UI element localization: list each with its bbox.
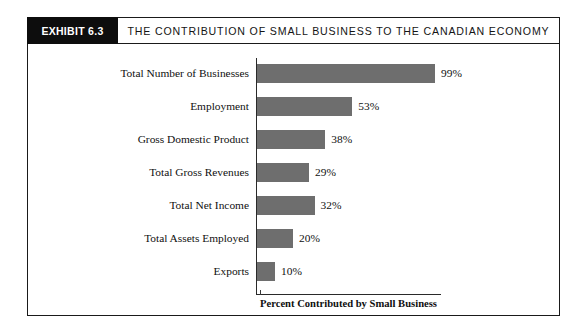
bar-value-label: 38% <box>331 130 352 149</box>
bar-container: 53% <box>257 97 379 116</box>
bar <box>257 64 435 83</box>
bar-container: 99% <box>257 64 462 83</box>
chart-bar-row: Employment53% <box>28 97 559 130</box>
exhibit-title-box: THE CONTRIBUTION OF SMALL BUSINESS TO TH… <box>118 17 560 44</box>
bar-value-label: 53% <box>358 97 379 116</box>
exhibit-header: EXHIBIT 6.3 THE CONTRIBUTION OF SMALL BU… <box>27 17 560 44</box>
bar-value-label: 32% <box>321 196 342 215</box>
bar-value-label: 99% <box>441 64 462 83</box>
x-axis-tick <box>260 290 261 295</box>
bar-chart: Total Number of Businesses99%Employment5… <box>28 44 559 315</box>
bar-container: 29% <box>257 163 336 182</box>
bar-category-label: Exports <box>214 262 249 281</box>
chart-bar-row: Total Assets Employed20% <box>28 229 559 262</box>
bar-container: 20% <box>257 229 320 248</box>
bar <box>257 229 293 248</box>
bar-category-label: Gross Domestic Product <box>138 130 249 149</box>
bar <box>257 163 309 182</box>
exhibit-title: THE CONTRIBUTION OF SMALL BUSINESS TO TH… <box>127 25 549 37</box>
bar-category-label: Total Net Income <box>169 196 249 215</box>
chart-bar-row: Exports10% <box>28 262 559 295</box>
bar-category-label: Total Assets Employed <box>144 229 249 248</box>
bar-category-label: Total Gross Revenues <box>149 163 249 182</box>
exhibit-body: Total Number of Businesses99%Employment5… <box>27 44 560 316</box>
bar-value-label: 20% <box>299 229 320 248</box>
bar <box>257 130 325 149</box>
exhibit-badge: EXHIBIT 6.3 <box>27 17 118 44</box>
bar <box>257 97 352 116</box>
bar <box>257 196 315 215</box>
bar-container: 32% <box>257 196 341 215</box>
bar-category-label: Total Number of Businesses <box>120 64 249 83</box>
x-axis-line <box>256 294 441 295</box>
bar-container: 38% <box>257 130 352 149</box>
bar-value-label: 10% <box>281 262 302 281</box>
bar-category-label: Employment <box>190 97 249 116</box>
chart-rows: Total Number of Businesses99%Employment5… <box>28 64 559 295</box>
bar-container: 10% <box>257 262 302 281</box>
y-axis-line <box>256 58 257 295</box>
bar-value-label: 29% <box>315 163 336 182</box>
exhibit-badge-label: EXHIBIT 6.3 <box>41 25 103 37</box>
chart-bar-row: Total Number of Businesses99% <box>28 64 559 97</box>
x-axis-label: Percent Contributed by Small Business <box>256 298 441 309</box>
chart-bar-row: Total Net Income32% <box>28 196 559 229</box>
chart-bar-row: Gross Domestic Product38% <box>28 130 559 163</box>
exhibit-frame: EXHIBIT 6.3 THE CONTRIBUTION OF SMALL BU… <box>27 17 560 316</box>
chart-bar-row: Total Gross Revenues29% <box>28 163 559 196</box>
bar <box>257 262 275 281</box>
